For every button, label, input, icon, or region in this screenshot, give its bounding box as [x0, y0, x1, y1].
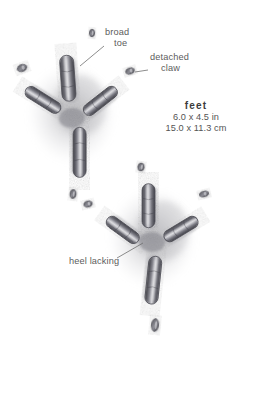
- annotation-heel-lacking: heel lacking: [69, 256, 139, 267]
- track-illustration-canvas: [0, 0, 257, 398]
- illustration-page: broad toe detached claw heel lacking fee…: [0, 0, 257, 398]
- annotation-broad-toe-line2: toe: [105, 38, 149, 49]
- toe-broad-toe-top: [59, 55, 79, 104]
- toe-highlight: [146, 187, 149, 225]
- measurements-metric: 15.0 x 11.3 cm: [148, 123, 244, 134]
- toe-hind-toe-bottom: [71, 125, 86, 177]
- measurements-block: feet 6.0 x 4.5 in 15.0 x 11.3 cm: [148, 100, 244, 135]
- claw-mid-left: [69, 189, 77, 199]
- measurements-imperial: 6.0 x 4.5 in: [148, 112, 244, 123]
- lower-track: [98, 180, 204, 307]
- leader-broad-toe: [80, 46, 104, 66]
- annotation-broad-toe: broad toe: [105, 27, 149, 48]
- claw-labeled: [125, 67, 136, 76]
- toe-broad-toe-top: [142, 184, 157, 230]
- claw-above-track: [89, 29, 96, 38]
- annotation-detached-claw-line2: claw: [150, 63, 214, 74]
- annotation-heel-lacking-text: heel lacking: [69, 256, 119, 266]
- claw-top-right: [137, 163, 145, 173]
- leader-detached-claw: [135, 70, 148, 72]
- claw-mid-right: [199, 190, 210, 199]
- claw-mid-left-lower: [83, 200, 94, 209]
- claw-top-left-outer: [16, 63, 29, 74]
- measurements-title: feet: [148, 100, 244, 111]
- claw-below-track: [151, 318, 160, 332]
- tracks-layer: [19, 50, 204, 308]
- annotation-detached-claw: detached claw: [150, 52, 214, 73]
- upper-track: [19, 50, 129, 183]
- annotation-broad-toe-line1: broad: [105, 27, 129, 37]
- annotation-detached-claw-line1: detached: [150, 52, 189, 62]
- toe-highlight: [79, 130, 82, 174]
